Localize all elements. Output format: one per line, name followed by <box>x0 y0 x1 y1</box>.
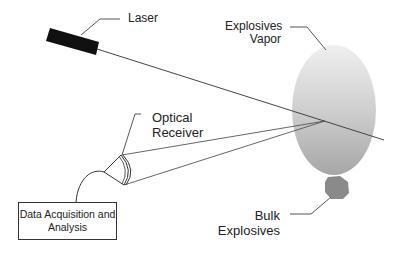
daq-label-line2: Analysis <box>48 221 87 234</box>
optical-receiver-icon <box>104 155 131 185</box>
data-acquisition-box: Data Acquisition and Analysis <box>18 202 117 240</box>
diagram-canvas: Laser Explosives Vapor Optical Receiver … <box>0 0 404 256</box>
receiver-label-line1: Optical <box>152 110 203 125</box>
daq-label-line1: Data Acquisition and <box>20 208 116 221</box>
laser-leader <box>81 19 120 35</box>
receiver-leader <box>122 114 141 155</box>
receiver-cable <box>76 171 104 202</box>
receiver-label-line2: Receiver <box>152 125 203 140</box>
explosives-vapor-plume <box>292 45 376 175</box>
receiver-label: Optical Receiver <box>152 110 203 140</box>
vapor-label-line2: Vapor <box>225 33 281 46</box>
bulk-label-line1: Bulk <box>212 208 280 223</box>
vapor-leader <box>290 27 326 50</box>
vapor-label: Explosives Vapor <box>225 20 281 46</box>
laser-label: Laser <box>128 12 158 25</box>
bulk-explosives-shape <box>325 176 349 199</box>
bulk-leader <box>290 197 331 214</box>
laser-icon <box>46 28 99 55</box>
bulk-label: Bulk Explosives <box>212 208 280 238</box>
bulk-label-line2: Explosives <box>212 223 280 238</box>
